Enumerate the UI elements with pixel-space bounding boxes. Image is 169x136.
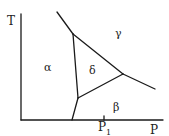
phase-beta-label: β [113, 101, 119, 114]
boundary-delta-gamma [73, 34, 123, 74]
phase-delta-label: δ [89, 64, 96, 77]
boundary-alpha-beta [72, 98, 78, 120]
phase-gamma-label: γ [115, 27, 122, 40]
p1-subscript: 1 [106, 128, 111, 136]
p1-label: P [98, 120, 106, 134]
boundary-delta-beta [78, 74, 123, 98]
x-axis-label: P [150, 123, 158, 136]
phase-alpha-label: α [44, 61, 52, 74]
boundary-alpha-gamma [57, 12, 73, 34]
boundary-alpha-delta [73, 34, 78, 98]
y-axis-label: T [7, 14, 15, 28]
phase-diagram: T P P 1 α δ γ β [0, 0, 169, 136]
boundary-beta-gamma [123, 74, 155, 89]
